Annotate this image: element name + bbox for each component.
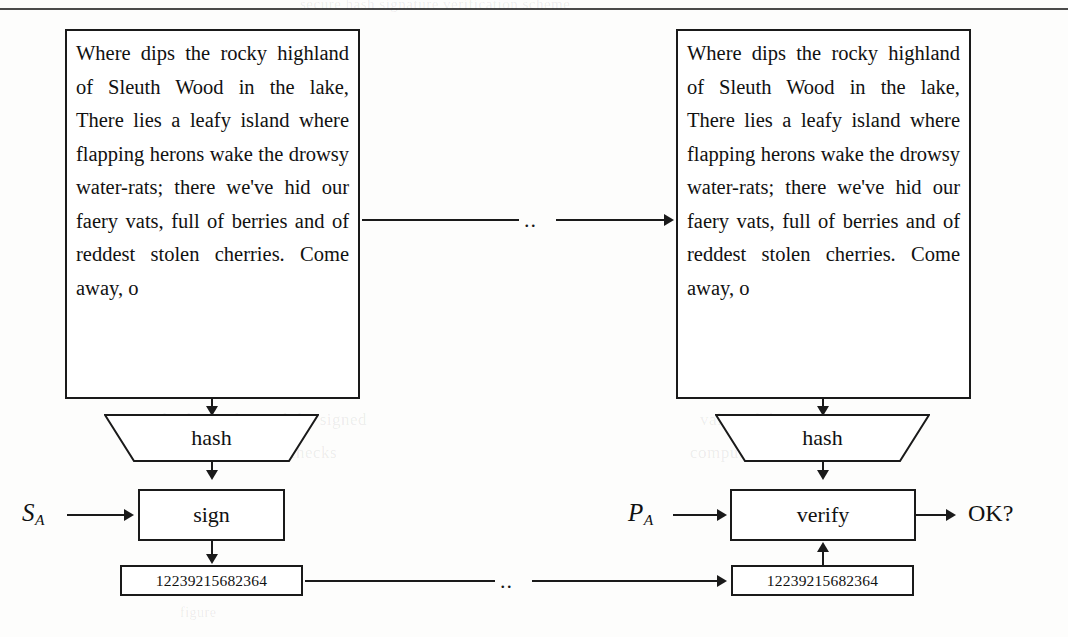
signature-box-left: 12239215682364 bbox=[120, 565, 303, 596]
public-key-subscript: A bbox=[644, 511, 653, 528]
hash-trapezoid-left: hash bbox=[104, 414, 319, 462]
signature-transfer-line-b bbox=[532, 580, 719, 582]
signature-transfer-line-a bbox=[305, 580, 495, 582]
connector-key-to-verify bbox=[673, 514, 718, 516]
figure-canvas: secure hash signature verification schem… bbox=[0, 0, 1068, 637]
verification-result-label: OK? bbox=[968, 500, 1013, 527]
arrowhead-message-transfer bbox=[664, 214, 674, 226]
message-text-right: Where dips the rocky highland of Sleuth … bbox=[687, 37, 960, 305]
connector-key-to-sign bbox=[67, 514, 125, 516]
public-key-label: PA bbox=[628, 499, 653, 529]
message-transfer-line-a bbox=[362, 219, 519, 221]
signature-value-right: 12239215682364 bbox=[767, 572, 878, 590]
hash-label-left: hash bbox=[104, 414, 319, 462]
arrowhead-sign-to-signature bbox=[206, 554, 218, 564]
ghost-bleed-top: secure hash signature verification schem… bbox=[300, 0, 570, 13]
private-key-subscript: A bbox=[35, 511, 44, 528]
arrowhead-signature-to-verify bbox=[817, 542, 829, 552]
message-box-left: Where dips the rocky highland of Sleuth … bbox=[65, 29, 360, 399]
private-key-label: SA bbox=[22, 499, 44, 529]
arrowhead-key-to-verify bbox=[717, 509, 727, 521]
message-text-left: Where dips the rocky highland of Sleuth … bbox=[76, 37, 349, 305]
message-transfer-line-b bbox=[556, 219, 666, 221]
connector-verify-to-result bbox=[916, 514, 948, 516]
verify-label: verify bbox=[797, 502, 850, 528]
arrowhead-right-hash-to-verify bbox=[817, 470, 829, 480]
arrowhead-key-to-sign bbox=[124, 509, 134, 521]
page-top-rule bbox=[0, 8, 1068, 10]
signature-transfer-ellipsis: .. bbox=[500, 570, 513, 592]
arrowhead-verify-to-result bbox=[946, 509, 956, 521]
sign-box: sign bbox=[138, 489, 285, 541]
public-key-letter: P bbox=[628, 499, 643, 526]
message-transfer-ellipsis: .. bbox=[524, 209, 537, 231]
sign-label: sign bbox=[193, 502, 230, 528]
message-box-right: Where dips the rocky highland of Sleuth … bbox=[676, 29, 971, 399]
verify-box: verify bbox=[730, 489, 916, 541]
arrowhead-left-hash-to-sign bbox=[206, 470, 218, 480]
arrowhead-signature-transfer bbox=[717, 575, 727, 587]
private-key-letter: S bbox=[22, 499, 35, 526]
signature-value-left: 12239215682364 bbox=[156, 572, 267, 590]
hash-label-right: hash bbox=[715, 414, 930, 462]
signature-box-right: 12239215682364 bbox=[731, 565, 914, 596]
hash-trapezoid-right: hash bbox=[715, 414, 930, 462]
ghost-bleed-bottom: figure bbox=[180, 605, 216, 621]
